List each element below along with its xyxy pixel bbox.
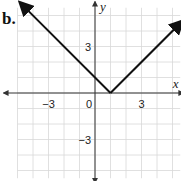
- y-axis-label: y: [98, 0, 106, 14]
- y-tick-label: 3: [85, 41, 91, 53]
- x-tick-label: 3: [138, 98, 144, 110]
- left-ray: [21, 3, 111, 93]
- right-ray: [111, 22, 182, 93]
- x-axis-label: x: [172, 76, 179, 91]
- y-tick-label: −3: [78, 134, 91, 146]
- axes: [4, 2, 181, 181]
- graph-plot: −3033−3xy: [0, 0, 181, 181]
- x-tick-label: 0: [86, 98, 92, 110]
- x-tick-label: −3: [42, 98, 55, 110]
